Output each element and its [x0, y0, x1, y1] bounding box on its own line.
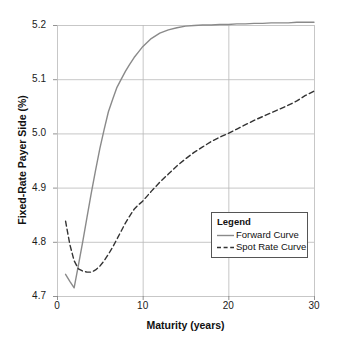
x-axis-title: Maturity (years): [57, 319, 314, 331]
legend-label: Forward Curve: [236, 229, 299, 241]
legend-item[interactable]: Forward Curve: [217, 229, 303, 241]
x-tick-label: 0: [42, 300, 72, 312]
x-tick: 20: [213, 300, 243, 312]
x-tick-label: 20: [213, 300, 243, 312]
x-tick: 0: [42, 300, 72, 312]
x-tick-label: 10: [128, 300, 158, 312]
legend-label: Spot Rate Curve: [236, 241, 306, 253]
x-tick: 30: [299, 300, 329, 312]
y-tick-label: 4.7: [12, 291, 46, 301]
legend: Legend Forward CurveSpot Rate Curve: [211, 212, 308, 258]
legend-title: Legend: [217, 216, 303, 228]
y-axis-title: Fixed-Rate Payer Side (%): [16, 60, 28, 260]
x-tick: 10: [128, 300, 158, 312]
x-tick-label: 30: [299, 300, 329, 312]
tick-marks: [53, 26, 315, 301]
solid-line-icon: [217, 230, 234, 240]
chart-container: 4.74.84.95.05.15.2 0102030 Maturity (yea…: [0, 0, 339, 351]
legend-entries: Forward CurveSpot Rate Curve: [217, 229, 303, 253]
dashed-line-icon: [217, 242, 234, 252]
legend-item[interactable]: Spot Rate Curve: [217, 241, 303, 253]
y-tick-label: 5.2: [12, 20, 46, 30]
